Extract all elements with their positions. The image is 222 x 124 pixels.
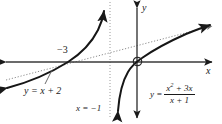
y-axis-label: y — [142, 3, 146, 13]
x-intercept-label: −3 — [57, 45, 68, 55]
vertical-asymptote-label: x = −1 — [76, 104, 101, 113]
graph-canvas — [0, 0, 222, 124]
numerator-exponent: 2 — [170, 81, 173, 88]
slant-asymptote-line — [6, 26, 212, 80]
function-equation-lhs: y = — [150, 90, 162, 99]
fraction-denominator: x + 1 — [168, 96, 191, 105]
slant-asymptote-equation-label: y = x + 2 — [24, 86, 61, 96]
fraction-numerator: x2 + 3x — [164, 84, 194, 93]
numerator-term-3x: + 3x — [176, 83, 193, 93]
function-equation-fraction: x2 + 3x x + 1 — [164, 84, 194, 105]
function-equation-label: y = x2 + 3x x + 1 — [150, 84, 195, 105]
x-axis-label: x — [206, 66, 210, 76]
rational-function-graph-figure: x y −3 x = −1 y = x + 2 y = x2 + 3x x + … — [0, 0, 222, 124]
curve-left-branch — [7, 11, 104, 88]
